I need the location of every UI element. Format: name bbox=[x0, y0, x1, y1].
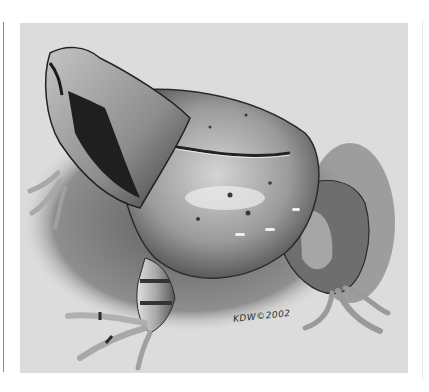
right-border-line bbox=[422, 20, 423, 380]
frog-illustration bbox=[20, 23, 408, 373]
left-border-line bbox=[3, 22, 4, 372]
illustration-panel: KDW©2002 bbox=[20, 23, 408, 373]
